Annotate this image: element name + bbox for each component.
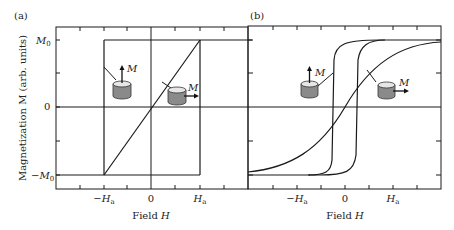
panel-b-x-ticks [273, 185, 417, 189]
x-tick-ha: Ha [386, 193, 400, 206]
y-tick-neg-m0: −M0 [31, 170, 54, 183]
panel-b-x-axis-label: Field H [326, 210, 364, 221]
panel-a-m-label-1: M [126, 63, 138, 74]
panel-a-x-ticks [80, 185, 224, 189]
magnetization-figure: (a) (b) Magnetization M (arb. units) [0, 0, 454, 230]
x-tick-zero: 0 [148, 193, 154, 204]
panel-b-m-label-1: M [314, 67, 326, 78]
panel-a-hard-axis-cylinder: M [162, 82, 199, 105]
panel-b-m-label-2: M [398, 77, 410, 88]
y-axis-label: Magnetization M (arb. units) [17, 35, 28, 181]
panel-a-x-axis-label: Field H [132, 210, 170, 221]
panel-a-m-label-2: M [187, 82, 199, 93]
y-tick-zero: 0 [44, 101, 50, 112]
panel-b-easy-axis-cylinder: M [301, 66, 333, 98]
panel-b: M M −Ha 0 Ha Field H [248, 26, 441, 221]
x-tick-ha: Ha [193, 193, 207, 206]
leader-line [104, 67, 116, 80]
panel-a: M M M0 0 −M0 −Ha 0 Ha Field H [31, 27, 252, 221]
x-tick-neg-ha: −Ha [286, 193, 307, 206]
panel-a-label: (a) [14, 10, 28, 21]
panel-a-top-ticks [80, 27, 224, 31]
x-tick-zero: 0 [342, 193, 348, 204]
y-tick-m0: M0 [35, 35, 51, 48]
x-tick-neg-ha: −Ha [93, 193, 114, 206]
panel-a-easy-axis-cylinder: M [104, 63, 138, 99]
panel-b-top-ticks [273, 26, 417, 30]
panel-b-hard-axis-cylinder: M [367, 70, 410, 99]
panel-b-label: (b) [250, 10, 264, 21]
